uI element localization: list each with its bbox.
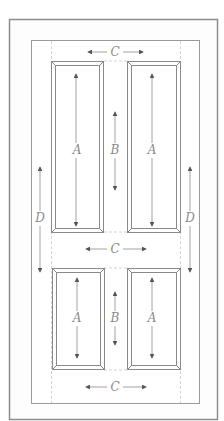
label-a-top-right: A xyxy=(147,143,157,157)
door-diagram: C A A B D D C A A B C xyxy=(0,0,224,421)
label-d-left: D xyxy=(34,211,45,225)
label-a-top-left: A xyxy=(72,143,82,157)
label-c-bottom: C xyxy=(110,380,119,394)
label-a-bottom-right: A xyxy=(147,311,157,325)
label-d-right: D xyxy=(184,211,195,225)
label-c-mid: C xyxy=(110,242,119,256)
label-b-top: B xyxy=(110,143,120,157)
label-c-top: C xyxy=(110,45,119,59)
label-b-bottom: B xyxy=(110,311,120,325)
label-a-bottom-left: A xyxy=(72,311,82,325)
